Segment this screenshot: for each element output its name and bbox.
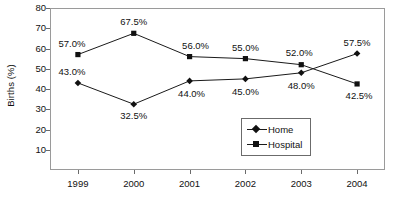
diamond-marker-icon: [242, 76, 249, 83]
diamond-marker-icon: [75, 80, 82, 87]
square-marker-icon: [354, 81, 359, 86]
x-tick-label: 2002: [223, 178, 267, 189]
diamond-marker-icon: [246, 124, 268, 136]
y-tick-label: 40: [24, 84, 46, 94]
legend-item-hospital[interactable]: Hospital: [246, 137, 306, 152]
data-point-label: 45.0%: [232, 86, 259, 97]
data-point-label: 55.0%: [232, 42, 259, 53]
diamond-marker-icon: [130, 101, 137, 108]
legend-item-label: Hospital: [268, 139, 302, 151]
data-point-label: 43.0%: [58, 66, 85, 77]
x-tick-mark: [190, 170, 191, 174]
data-point-label: 52.0%: [286, 47, 313, 58]
legend[interactable]: Home Hospital: [241, 118, 311, 156]
diamond-marker-icon: [186, 78, 193, 85]
y-tick-mark: [46, 8, 50, 9]
square-marker-icon: [299, 62, 304, 67]
y-axis-title-text: Births (%): [5, 64, 16, 107]
data-point-label: 67.5%: [120, 16, 147, 27]
y-axis-title: Births (%): [0, 0, 20, 170]
y-tick-mark: [46, 89, 50, 90]
y-tick-mark: [46, 150, 50, 151]
y-tick-label: 50: [24, 64, 46, 74]
y-tick-label: 10: [24, 145, 46, 155]
x-tick-mark: [301, 170, 302, 174]
y-tick-label: 20: [24, 125, 46, 135]
series-line: [78, 33, 357, 84]
square-marker-icon: [246, 139, 268, 151]
x-tick-mark: [78, 170, 79, 174]
data-point-label: 57.5%: [344, 37, 371, 48]
y-tick-mark: [46, 49, 50, 50]
y-tick-mark: [46, 69, 50, 70]
y-tick-mark: [46, 130, 50, 131]
y-tick-mark: [46, 109, 50, 110]
x-tick-label: 2004: [335, 178, 379, 189]
series-home: [75, 50, 361, 107]
data-point-label: 42.5%: [346, 90, 373, 101]
y-tick-label: 80: [24, 3, 46, 13]
x-tick-label: 2003: [279, 178, 323, 189]
square-marker-icon: [243, 56, 248, 61]
series-hospital: [75, 31, 359, 87]
data-point-label: 32.5%: [120, 110, 147, 121]
y-tick-label: 60: [24, 44, 46, 54]
y-tick-label: 70: [24, 23, 46, 33]
diamond-marker-icon: [354, 50, 361, 57]
series-line: [78, 54, 357, 105]
data-point-label: 57.0%: [58, 38, 85, 49]
square-marker-icon: [75, 52, 80, 57]
y-tick-label: 30: [24, 104, 46, 114]
x-tick-label: 2001: [168, 178, 212, 189]
legend-item-home[interactable]: Home: [246, 122, 306, 137]
y-tick-mark: [46, 28, 50, 29]
data-point-label: 56.0%: [182, 40, 209, 51]
line-chart: Births (%) 1020304050607080 43.0%32.5%44…: [0, 0, 407, 206]
data-point-label: 48.0%: [288, 80, 315, 91]
data-point-label: 44.0%: [178, 88, 205, 99]
y-axis-ticks: 1020304050607080: [22, 0, 46, 206]
x-tick-mark: [357, 170, 358, 174]
plot-series-canvas: [50, 8, 385, 170]
legend-item-label: Home: [268, 124, 293, 136]
x-tick-mark: [245, 170, 246, 174]
x-tick-label: 1999: [56, 178, 100, 189]
x-tick-label: 2000: [112, 178, 156, 189]
x-tick-mark: [134, 170, 135, 174]
square-marker-icon: [131, 31, 136, 36]
diamond-marker-icon: [298, 70, 305, 77]
square-marker-icon: [187, 54, 192, 59]
